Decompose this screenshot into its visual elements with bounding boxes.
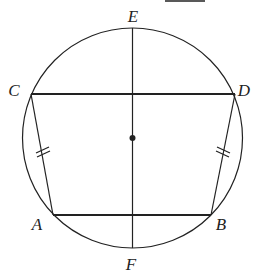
tick-marks-ca xyxy=(36,147,50,157)
label-d: D xyxy=(237,81,251,100)
geometry-diagram: E F C D A B xyxy=(0,0,257,279)
label-b: B xyxy=(216,215,227,234)
label-f: F xyxy=(125,255,137,274)
center-point xyxy=(130,135,136,141)
label-e: E xyxy=(127,7,139,26)
label-c: C xyxy=(8,81,20,100)
label-a: A xyxy=(31,215,43,234)
